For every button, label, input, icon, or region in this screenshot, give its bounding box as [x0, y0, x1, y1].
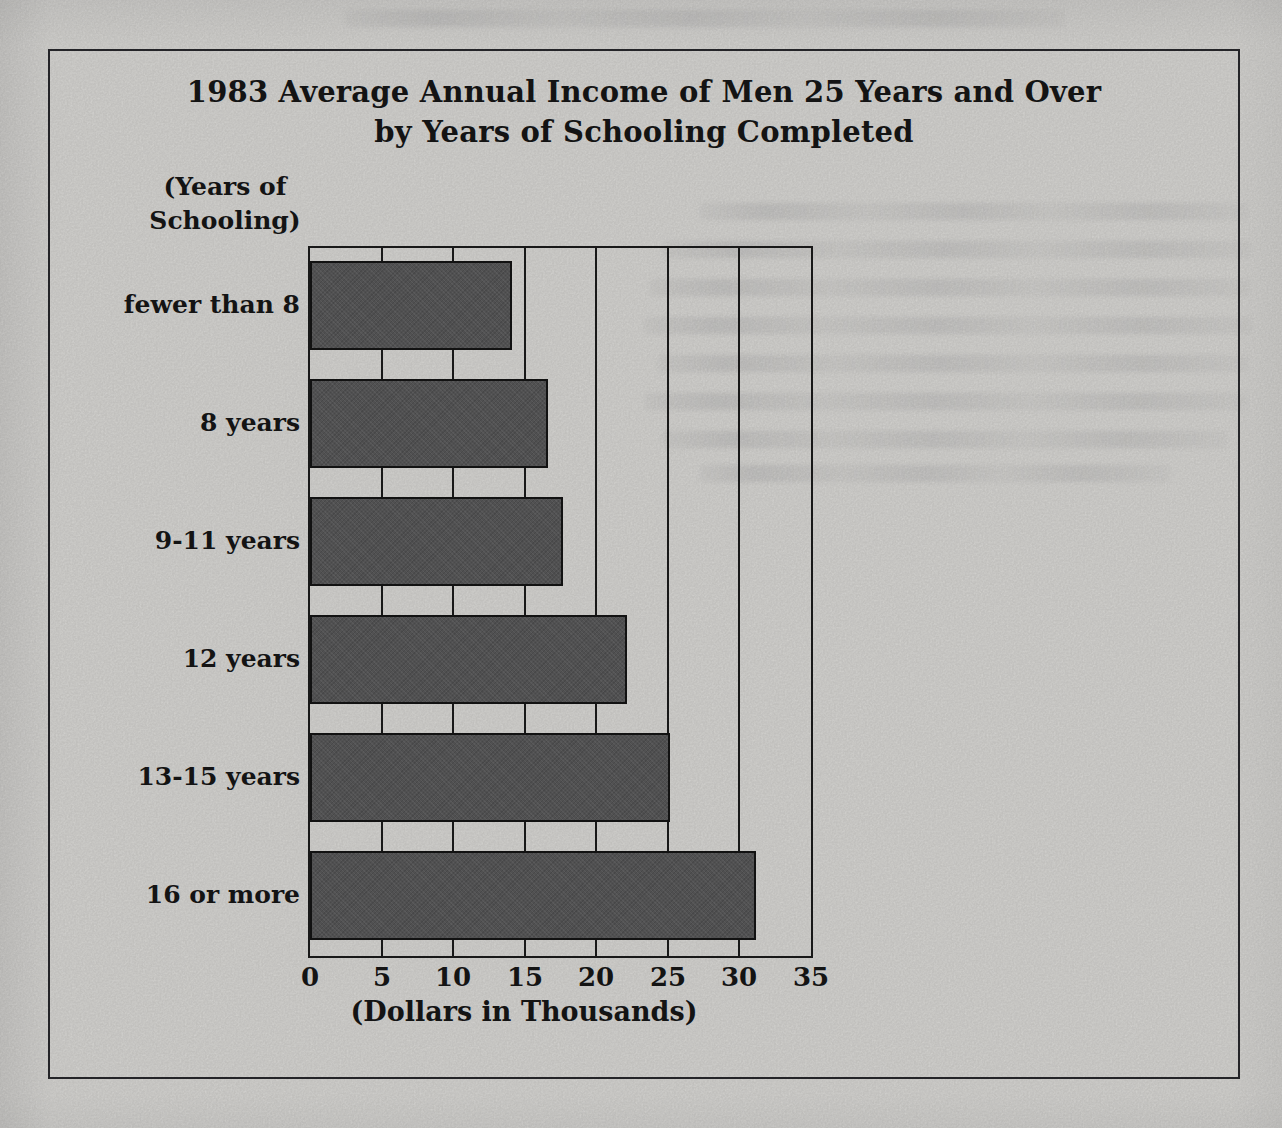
x-axis-label: (Dollars in Thousands) [324, 996, 724, 1027]
bar-8-years [310, 379, 548, 468]
bar-12-years [310, 615, 627, 704]
y-axis-unit-label: (Years of Schooling) [146, 170, 304, 238]
bar-9-11-years [310, 497, 563, 586]
plot-area [308, 246, 813, 958]
gridline-15 [524, 248, 526, 956]
chart-title-line1: 1983 Average Annual Income of Men 25 Yea… [48, 72, 1240, 112]
x-tick-label-0: 0 [301, 962, 319, 992]
x-tick-label-5: 5 [373, 962, 391, 992]
gridline-10 [452, 248, 454, 956]
gridline-20 [595, 248, 597, 956]
y-axis-unit-line2: Schooling) [146, 204, 304, 238]
category-label: fewer than 8 [50, 289, 300, 321]
x-tick-label-25: 25 [650, 962, 686, 992]
category-label: 8 years [50, 407, 300, 439]
scanned-page: 1983 Average Annual Income of Men 25 Yea… [0, 0, 1282, 1128]
category-label: 9-11 years [50, 525, 300, 557]
y-axis-unit-line1: (Years of [146, 170, 304, 204]
chart-title-line2: by Years of Schooling Completed [48, 112, 1240, 152]
bar-16-or-more [310, 851, 756, 940]
bar-fewer-than-8 [310, 261, 512, 350]
x-tick-label-35: 35 [793, 962, 829, 992]
ghost-text-smudge [345, 10, 1065, 27]
category-label: 12 years [50, 643, 300, 675]
category-label: 13-15 years [50, 761, 300, 793]
gridline-5 [381, 248, 383, 956]
category-label: 16 or more [50, 879, 300, 911]
chart-title: 1983 Average Annual Income of Men 25 Yea… [48, 72, 1240, 152]
x-tick-label-20: 20 [578, 962, 614, 992]
bar-13-15-years [310, 733, 670, 822]
x-tick-label-30: 30 [721, 962, 757, 992]
x-tick-label-15: 15 [507, 962, 543, 992]
gridline-30 [738, 248, 740, 956]
gridline-25 [667, 248, 669, 956]
x-tick-label-10: 10 [435, 962, 471, 992]
